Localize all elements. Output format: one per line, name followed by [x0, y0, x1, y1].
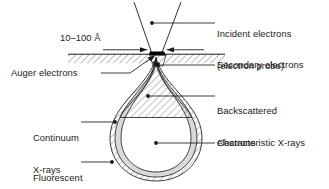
dot-incident [150, 21, 154, 25]
dot-secondary [156, 63, 160, 67]
diagram-canvas: Incident electrons (electron probe) 10–1… [0, 0, 329, 189]
label-secondary-electrons: Secondary electrons [217, 60, 303, 71]
label-continuum-line1: Continuum [33, 133, 79, 144]
specimen-surface [68, 54, 225, 63]
label-characteristic-xrays: Characteristic X-rays [217, 138, 305, 149]
interaction-volume [110, 55, 202, 181]
region-backscattered-electrons [121, 59, 192, 118]
label-incident-line1: Incident electrons [217, 29, 291, 40]
label-incident-electrons: Incident electrons (electron probe) [217, 8, 291, 93]
dot-continuum [113, 120, 117, 124]
label-backscattered-line1: Backscattered [217, 106, 277, 117]
probe-width-dimension [103, 47, 204, 52]
dot-characteristic [154, 141, 158, 145]
label-fluorescent-line1: Fluorescent [33, 173, 83, 184]
label-probe-dimension: 10–100 Å [60, 33, 101, 44]
label-backscattered-electrons: Backscattered electrons [217, 85, 277, 170]
dot-backscattered [146, 94, 150, 98]
incident-beam [134, 2, 181, 53]
electron-probe-spot [149, 52, 167, 56]
label-auger-electrons: Auger electrons [11, 68, 77, 79]
dot-fluorescent [110, 160, 114, 164]
label-fluorescent-xrays: Fluorescent X-rays [33, 152, 83, 189]
